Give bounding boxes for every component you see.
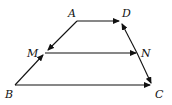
point-label-M: M <box>27 48 38 59</box>
point-label-N: N <box>141 48 151 59</box>
point-label-C: C <box>155 89 163 100</box>
vector-ND <box>122 24 137 53</box>
point-label-B: B <box>5 89 13 100</box>
vector-AM <box>48 21 77 50</box>
point-label-D: D <box>122 8 131 19</box>
point-label-A: A <box>68 8 76 19</box>
